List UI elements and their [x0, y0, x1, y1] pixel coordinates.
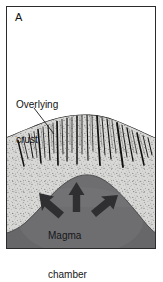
label-overlying-crust-line1: Overlying — [16, 99, 58, 111]
label-magma-chamber-line2: chamber — [48, 268, 87, 281]
label-magma-chamber-line1: Magma — [48, 229, 87, 242]
label-magma-chamber: Magma chamber — [48, 203, 87, 282]
panel-letter-a: A — [15, 12, 23, 23]
label-overlying-crust-line2: crust — [16, 134, 58, 146]
label-overlying-crust: Overlying crust — [16, 76, 58, 168]
